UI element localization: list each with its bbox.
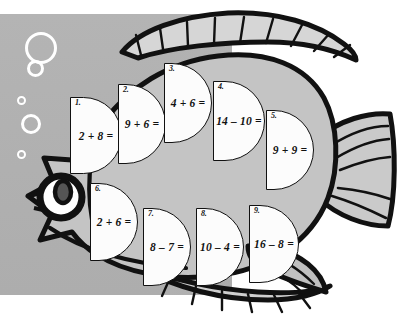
scale-number-7: 7. bbox=[148, 210, 154, 218]
scale-number-3: 3. bbox=[169, 65, 175, 73]
scale-equation-7: 8 – 7 = bbox=[144, 241, 190, 253]
scale-number-9: 9. bbox=[254, 207, 260, 215]
scale-number-1: 1. bbox=[75, 99, 81, 107]
scale-number-4: 4. bbox=[218, 83, 224, 91]
scale-number-5: 5. bbox=[271, 112, 277, 120]
scale-equation-2: 9 + 6 = bbox=[119, 118, 165, 130]
scale-equation-8: 10 – 4 = bbox=[197, 241, 243, 253]
worksheet-canvas: 1. 2 + 8 = 2. 9 + 6 = 3. 4 + 6 = 4. 14 –… bbox=[0, 0, 400, 317]
scale-number-8: 8. bbox=[201, 210, 207, 218]
eye-pupil bbox=[55, 181, 71, 203]
scale-equation-3: 4 + 6 = bbox=[165, 97, 211, 109]
scale-number-2: 2. bbox=[123, 86, 129, 94]
scale-equation-6: 2 + 6 = bbox=[91, 216, 137, 228]
scale-equation-5: 9 + 9 = bbox=[267, 144, 313, 156]
scale-equation-4: 14 – 10 = bbox=[214, 115, 264, 127]
scale-equation-1: 2 + 8 = bbox=[71, 130, 121, 142]
scale-equation-9: 16 – 8 = bbox=[250, 238, 298, 250]
scale-number-6: 6. bbox=[95, 185, 101, 193]
